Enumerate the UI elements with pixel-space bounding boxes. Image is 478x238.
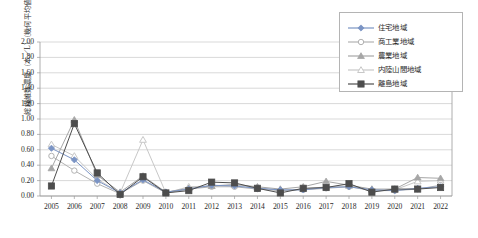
legend-marker-open-circle-icon <box>346 34 376 46</box>
data-point-5-5 <box>163 190 169 196</box>
data-point-5-9 <box>254 185 260 191</box>
data-point-5-17 <box>437 184 443 190</box>
legend-marker-filled-triangle-icon <box>346 48 376 60</box>
legend-marker-open-triangle-icon <box>346 62 376 74</box>
y-tick-label: 1.40 <box>8 83 34 92</box>
y-tick-label: 0.80 <box>8 129 34 138</box>
data-point-5-3 <box>117 191 123 197</box>
data-point-legend-5 <box>358 81 364 87</box>
legend-item-1[interactable]: 住宅地域 <box>346 19 407 33</box>
y-tick-label: 2.00 <box>8 37 34 46</box>
data-point-5-2 <box>94 170 100 176</box>
data-point-5-6 <box>186 188 192 194</box>
data-point-5-14 <box>369 189 375 195</box>
y-tick-label: 1.00 <box>8 114 34 123</box>
series-line <box>51 120 440 192</box>
data-point-5-4 <box>140 174 146 180</box>
data-point-5-11 <box>300 185 306 191</box>
legend-marker-filled-diamond-icon <box>346 20 376 32</box>
data-point-2-1 <box>72 168 77 173</box>
data-point-5-7 <box>209 179 215 185</box>
data-point-5-1 <box>71 121 77 127</box>
chart-legend: 住宅地域商工業地域農業地域内陸山間地域離島地域 <box>339 12 463 92</box>
legend-item-5[interactable]: 離島地域 <box>346 75 407 89</box>
legend-item-2[interactable]: 商工業地域 <box>346 33 414 47</box>
y-tick-label: 1.80 <box>8 52 34 61</box>
data-point-5-16 <box>415 186 421 192</box>
data-point-5-13 <box>346 181 352 187</box>
data-point-legend-1 <box>358 25 364 31</box>
data-point-5-0 <box>48 183 54 189</box>
y-tick-label: 0.40 <box>8 160 34 169</box>
chart-container: 総繊維数濃度（本／L）（幾何平均値） 住宅地域商工業地域農業地域内陸山間地域離島… <box>0 0 478 238</box>
y-tick-label: 1.60 <box>8 68 34 77</box>
data-point-3-12 <box>323 178 330 184</box>
legend-marker-filled-square-icon <box>346 76 376 88</box>
data-point-5-15 <box>392 186 398 192</box>
legend-label: 農業地域 <box>378 49 407 60</box>
y-tick-label: 1.20 <box>8 99 34 108</box>
legend-item-3[interactable]: 農業地域 <box>346 47 407 61</box>
data-point-5-12 <box>323 184 329 190</box>
y-tick-label: 0.00 <box>8 191 34 200</box>
data-point-2-0 <box>49 153 54 158</box>
data-point-legend-2 <box>358 39 363 44</box>
series-line <box>51 156 440 194</box>
data-point-5-10 <box>277 190 283 196</box>
legend-label: 住宅地域 <box>378 21 407 32</box>
legend-label: 離島地域 <box>378 77 407 88</box>
y-tick-label: 0.60 <box>8 145 34 154</box>
legend-item-4[interactable]: 内陸山間地域 <box>346 61 421 75</box>
data-point-3-0 <box>48 165 55 171</box>
legend-label: 内陸山間地域 <box>378 63 421 74</box>
y-tick-label: 0.20 <box>8 176 34 185</box>
x-tick-label: 2022 <box>427 202 455 211</box>
data-point-4-4 <box>140 136 147 142</box>
legend-label: 商工業地域 <box>378 35 414 46</box>
data-point-5-8 <box>231 180 237 186</box>
